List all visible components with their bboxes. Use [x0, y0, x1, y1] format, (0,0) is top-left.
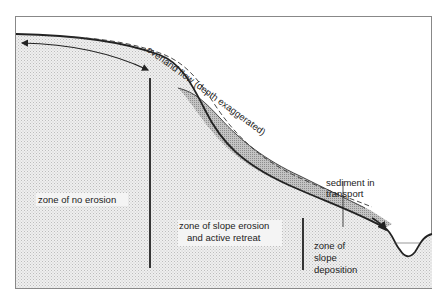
- zone-deposition-label-line2: slope: [314, 252, 337, 263]
- zone-erosion-label-line1: zone of slope erosion: [179, 220, 269, 231]
- zone-deposition-label-line3: deposition: [314, 264, 357, 275]
- zone-deposition-label-line1: zone of: [314, 240, 346, 251]
- zone-no-erosion-label: zone of no erosion: [38, 194, 116, 205]
- slope-erosion-diagram: overland flow (depth exaggerated) sedime…: [0, 0, 448, 296]
- sediment-label-line2: transport: [326, 188, 364, 199]
- zone-erosion-label-line2: and active retreat: [187, 232, 261, 243]
- sediment-label-line1: sediment in: [326, 177, 375, 188]
